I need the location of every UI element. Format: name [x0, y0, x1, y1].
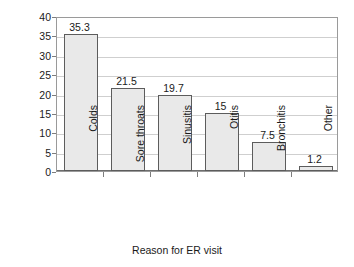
y-tick-label: 10	[31, 128, 51, 138]
x-tick-mark	[103, 172, 104, 177]
x-category-label: Otitis	[227, 105, 241, 179]
x-tick-mark	[244, 172, 245, 177]
y-tick-label: 0	[31, 167, 51, 177]
x-tick-mark	[150, 172, 151, 177]
y-tick-label: 20	[31, 90, 51, 100]
x-category-label: Bronchitis	[274, 105, 288, 179]
x-category-label: Sinusitis	[180, 105, 194, 179]
x-axis-title: Reason for ER visit	[0, 243, 354, 257]
x-tick-mark	[197, 172, 198, 177]
x-category-label: Colds	[86, 105, 100, 179]
x-category-label: Other	[321, 105, 335, 179]
y-axis-tick-labels: 0510152025303540	[30, 0, 51, 267]
y-tick-label: 40	[31, 12, 51, 22]
y-tick-label: 15	[31, 109, 51, 119]
y-tick-label: 25	[31, 70, 51, 80]
y-tick-label: 30	[31, 51, 51, 61]
x-category-label: Sore throats	[133, 105, 147, 179]
bar-chart: Percentage of visits 0510152025303540 35…	[0, 0, 354, 267]
y-tick-label: 35	[31, 31, 51, 41]
x-tick-mark	[291, 172, 292, 177]
y-tick-label: 5	[31, 148, 51, 158]
bar-value-label: 35.3	[55, 22, 105, 33]
y-tick-mark	[52, 172, 56, 173]
bar-value-label: 21.5	[102, 76, 152, 87]
bar-value-label: 19.7	[149, 83, 199, 94]
